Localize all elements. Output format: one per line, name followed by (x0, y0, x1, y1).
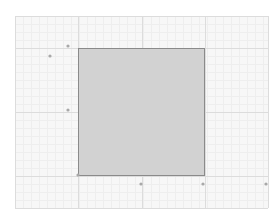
marker-rect-bottom-left[interactable] (76, 173, 79, 176)
drawing-canvas[interactable] (0, 0, 280, 218)
marker-left-upper[interactable] (48, 54, 51, 57)
marker-far-right[interactable] (264, 182, 267, 185)
marker-left-middle[interactable] (66, 108, 69, 111)
marker-bottom-middle[interactable] (139, 182, 142, 185)
canvas-svg[interactable] (0, 0, 280, 218)
selected-rectangle[interactable] (79, 49, 205, 176)
marker-bottom-right[interactable] (201, 182, 204, 185)
marker-top-left-outer[interactable] (66, 44, 69, 47)
